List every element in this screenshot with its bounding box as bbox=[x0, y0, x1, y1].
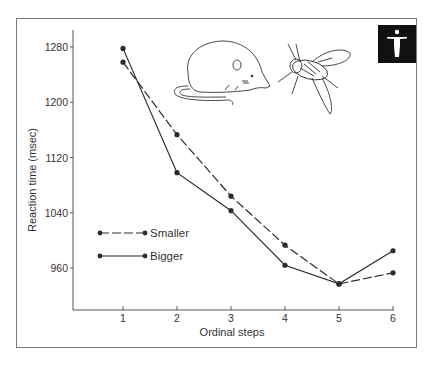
x-tick-label: 6 bbox=[390, 312, 396, 324]
x-tick-label: 3 bbox=[228, 312, 234, 324]
legend-item-bigger: Bigger bbox=[98, 250, 184, 262]
data-point bbox=[390, 270, 395, 275]
x-tick-label: 4 bbox=[282, 312, 288, 324]
x-tick-label: 5 bbox=[336, 312, 342, 324]
y-ticks: 9601040112012001280 bbox=[45, 41, 73, 274]
y-tick-label: 1280 bbox=[45, 41, 69, 53]
data-point bbox=[120, 46, 125, 51]
data-point bbox=[282, 263, 287, 268]
data-point bbox=[174, 132, 179, 137]
x-axis-title: Ordinal steps bbox=[200, 326, 265, 338]
y-tick-label: 1200 bbox=[45, 96, 69, 108]
data-point bbox=[120, 60, 125, 65]
legend-label-bigger: Bigger bbox=[150, 250, 183, 262]
series-line-bigger bbox=[123, 48, 393, 284]
y-tick-label: 960 bbox=[50, 262, 68, 274]
x-tick-label: 2 bbox=[174, 312, 180, 324]
y-tick-label: 1040 bbox=[45, 207, 69, 219]
line-chart: 9601040112012001280 123456 Reaction time… bbox=[0, 0, 435, 367]
data-point bbox=[228, 208, 233, 213]
legend: Smaller Bigger bbox=[98, 227, 190, 262]
fly-illustration bbox=[278, 44, 350, 114]
data-point bbox=[390, 248, 395, 253]
rat-illustration bbox=[174, 41, 270, 105]
y-tick-label: 1120 bbox=[45, 152, 68, 164]
data-point bbox=[228, 194, 233, 199]
human-figure-icon bbox=[378, 25, 416, 63]
legend-item-smaller: Smaller bbox=[98, 227, 190, 239]
data-point bbox=[282, 243, 287, 248]
x-ticks: 123456 bbox=[120, 306, 396, 324]
data-point bbox=[336, 281, 341, 286]
x-tick-label: 1 bbox=[120, 312, 126, 324]
legend-label-smaller: Smaller bbox=[150, 227, 189, 239]
y-axis-title: Reaction time (msec) bbox=[26, 128, 38, 232]
data-point bbox=[174, 170, 179, 175]
